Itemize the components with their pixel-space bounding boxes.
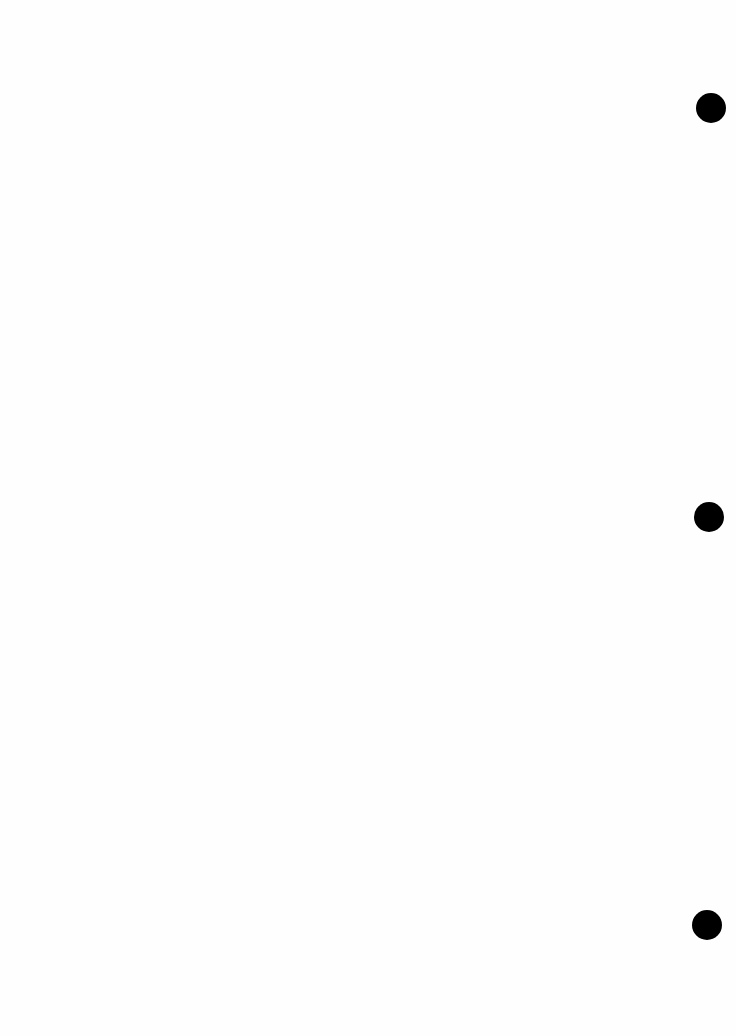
- punch-hole-bottom: [692, 910, 722, 940]
- punch-hole-middle: [694, 502, 724, 532]
- blank-scanned-page: [0, 0, 736, 1036]
- punch-hole-top: [696, 93, 726, 123]
